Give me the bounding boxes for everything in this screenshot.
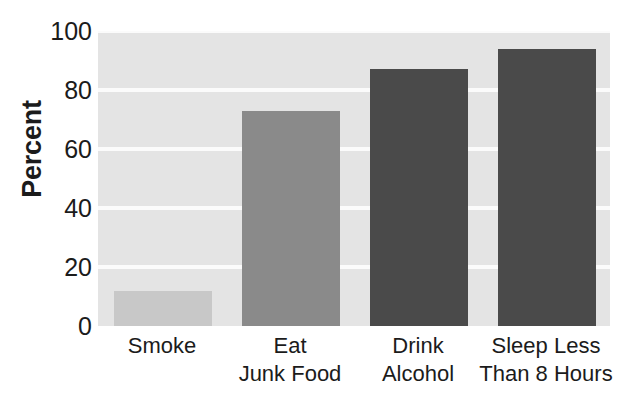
bars-group — [98, 31, 610, 326]
y-tick-label: 60 — [30, 137, 92, 162]
y-tick-label: 40 — [30, 196, 92, 221]
x-tick-label-line-1: Sleep Less — [492, 333, 601, 358]
y-tick-label: 0 — [30, 314, 92, 339]
x-tick-label-line-1: Eat — [273, 333, 306, 358]
y-axis-tick-labels: 020406080100 — [30, 31, 92, 326]
x-axis-tick-labels: SmokeEatJunk FoodDrinkAlcoholSleep LessT… — [98, 332, 610, 402]
bar — [114, 291, 212, 326]
bar-chart-figure: Percent 020406080100 SmokeEatJunk FoodDr… — [0, 0, 640, 409]
bar — [370, 69, 468, 326]
bar — [242, 111, 340, 326]
plot-area — [98, 31, 610, 326]
x-tick-label-line-2: Than 8 Hours — [470, 360, 622, 388]
y-tick-label: 20 — [30, 255, 92, 280]
bar — [498, 49, 596, 326]
x-tick-label-line-1: Smoke — [128, 333, 196, 358]
y-tick-label: 100 — [30, 19, 92, 44]
x-tick-label-line-1: Drink — [392, 333, 443, 358]
x-tick-label: Sleep LessThan 8 Hours — [470, 332, 622, 388]
y-tick-label: 80 — [30, 78, 92, 103]
